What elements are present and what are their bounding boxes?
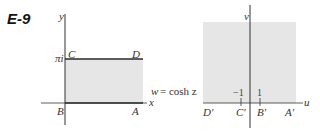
point-c-label: C [68, 49, 75, 60]
point-d-prime-label: D′ [203, 107, 213, 118]
mapping-w: w [151, 86, 158, 97]
point-a-label: A [132, 106, 139, 117]
point-b-label: B [57, 106, 64, 117]
point-b-prime-label: B′ [257, 107, 266, 118]
mapping-label: = cosh z [160, 86, 197, 97]
tick-minus-one-label: −1 [233, 88, 244, 98]
pi-i-tick-label: πi [55, 53, 64, 64]
u-axis-label: u [304, 97, 310, 108]
tick-one-label: 1 [257, 88, 262, 98]
point-a-prime-label: A′ [285, 107, 294, 118]
point-c-prime-label: C′ [236, 107, 246, 118]
z-plane-strip [65, 59, 143, 103]
diagram-canvas [0, 0, 320, 131]
v-axis-label: v [244, 11, 249, 22]
x-axis-label: x [149, 97, 154, 108]
y-axis-label: y [59, 11, 64, 22]
point-d-label: D [132, 49, 140, 60]
